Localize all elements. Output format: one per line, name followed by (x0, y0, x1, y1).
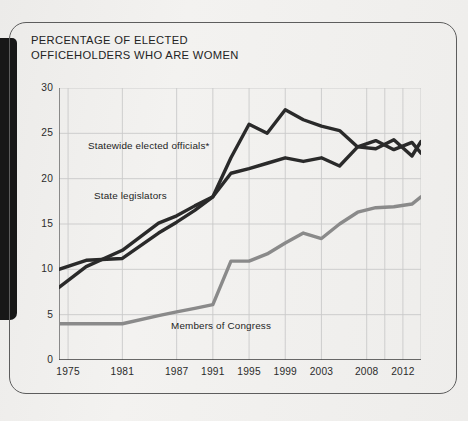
y-tick-label: 5 (31, 309, 53, 320)
x-tick-label: 1981 (102, 366, 142, 377)
y-tick-label: 20 (31, 173, 53, 184)
series-label-statewide: Statewide elected officials* (88, 140, 210, 151)
x-tick-label: 1987 (157, 366, 197, 377)
x-tick-label: 2008 (347, 366, 387, 377)
y-tick-label: 0 (31, 354, 53, 365)
y-tick-label: 30 (31, 82, 53, 93)
series-label-state-legislators: State legislators (94, 190, 167, 201)
y-tick-label: 15 (31, 218, 53, 229)
x-tick-label: 1975 (48, 366, 88, 377)
x-tick-label: 1999 (265, 366, 305, 377)
x-tick-label: 1995 (229, 366, 269, 377)
y-tick-label: 25 (31, 127, 53, 138)
x-tick-label: 1991 (193, 366, 233, 377)
x-tick-label: 2003 (301, 366, 341, 377)
x-tick-label: 2012 (383, 366, 423, 377)
y-tick-label: 10 (31, 263, 53, 274)
series-label-members-of-congress: Members of Congress (171, 320, 271, 331)
chart-title: PERCENTAGE OF ELECTED OFFICEHOLDERS WHO … (31, 33, 239, 62)
figure-root: PERCENTAGE OF ELECTED OFFICEHOLDERS WHO … (0, 0, 468, 421)
